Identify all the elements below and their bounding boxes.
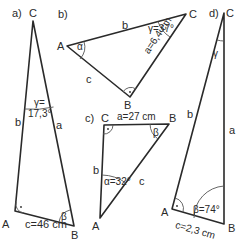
- triangle-d: [172, 13, 224, 224]
- vertex-c-c: C: [101, 113, 109, 124]
- vertex-a-c: A: [92, 221, 99, 232]
- vertex-c-b: C: [189, 9, 197, 20]
- side-b-a: b: [15, 117, 21, 128]
- side-a-d: a: [229, 125, 235, 136]
- angle-beta-d: β=74°: [193, 205, 220, 215]
- angle-gamma-b: γ=37°: [148, 24, 174, 34]
- angle-beta-a: β: [61, 212, 67, 222]
- angle-alpha-b: α: [77, 42, 83, 52]
- side-b-c: b: [93, 165, 99, 176]
- side-c-b: c: [86, 74, 92, 85]
- side-a-a: a: [56, 120, 62, 131]
- triangle-exercise-figure: a) C A B b a c=46 cm γ= 17,3° β b) A C B…: [0, 0, 246, 249]
- triangle-a-label: a): [12, 8, 22, 19]
- angle-gamma-a-line1: γ=: [34, 98, 45, 108]
- triangle-b-label: b): [58, 9, 68, 20]
- side-c-c: c: [139, 176, 145, 187]
- vertex-b-b: B: [124, 100, 131, 111]
- vertex-c-a: C: [29, 8, 37, 19]
- triangle-d-label: d): [209, 8, 219, 19]
- side-a-c: a=27 cm: [117, 112, 156, 122]
- side-b-d: b: [187, 109, 193, 120]
- vertex-c-d: C: [226, 8, 234, 19]
- angle-beta-c: β: [153, 128, 159, 138]
- angle-gamma-a-line2: 17,3°: [28, 109, 51, 119]
- triangle-c: [100, 124, 169, 218]
- triangle-c-label: c): [85, 113, 94, 124]
- angle-alpha-c: α=32°: [104, 177, 131, 187]
- vertex-a-b: A: [57, 41, 64, 52]
- vertex-b-d: B: [228, 223, 235, 234]
- angle-arc-gamma-d: [217, 40, 224, 41]
- vertex-a-a: A: [2, 219, 9, 230]
- triangle-a: [15, 21, 74, 226]
- vertex-a-d: A: [161, 207, 168, 218]
- vertex-b-c: B: [169, 113, 176, 124]
- angle-gamma-d: γ: [213, 49, 218, 59]
- side-b-b: b: [122, 20, 128, 31]
- vertex-b-a: B: [71, 230, 78, 241]
